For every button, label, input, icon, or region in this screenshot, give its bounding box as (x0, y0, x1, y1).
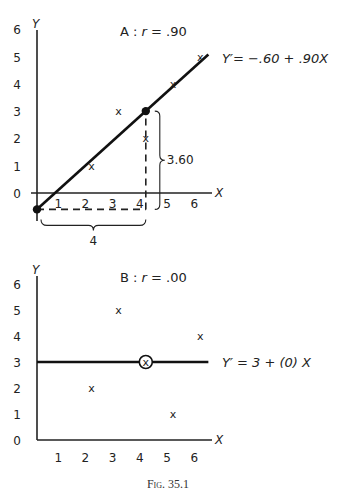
panel-label: B : (120, 270, 142, 285)
y-tick-label: 1 (13, 160, 21, 174)
y-tick-label: 0 (13, 434, 21, 448)
run-label: 4 (90, 234, 98, 248)
x-tick-label: 6 (190, 197, 198, 211)
x-tick-label: 5 (163, 451, 171, 465)
r-value: = .90 (151, 24, 187, 39)
chart-title: A : r = .90 (120, 24, 187, 39)
y-tick-label: 4 (13, 78, 21, 92)
y-tick-label: 2 (13, 132, 21, 146)
x-tick-label: 3 (109, 451, 117, 465)
y-tick-label: 1 (13, 408, 21, 422)
data-point: x (115, 304, 122, 317)
rise-brace (155, 111, 165, 209)
x-tick-label: 5 (163, 197, 171, 211)
data-point: x (88, 382, 95, 395)
data-point: x (170, 408, 177, 421)
x-tick-label: 1 (54, 451, 62, 465)
data-point: x (143, 132, 150, 145)
line-anchor-point (33, 205, 41, 213)
panel-label: A : (120, 24, 142, 39)
figure-caption: Fig. 35.1 (147, 477, 189, 491)
panel-b: YX0123456123456B : r = .00Y′ = 3 + (0) X… (13, 263, 312, 465)
x-tick-label: 2 (82, 451, 90, 465)
chart-title: B : r = .00 (120, 270, 187, 285)
y-tick-label: 5 (13, 304, 21, 318)
figure-canvas: YX0123456123456A : r = .90Y′= −.60 + .90… (0, 0, 337, 494)
y-tick-label: 6 (13, 23, 21, 37)
x-tick-label: 4 (136, 451, 144, 465)
r-value: = .00 (151, 270, 187, 285)
x-axis-label: X (214, 433, 224, 447)
data-point: x (197, 51, 204, 64)
x-axis-label: X (214, 186, 224, 200)
y-tick-label: 6 (13, 278, 21, 292)
y-axis-label: Y (32, 17, 41, 31)
data-point: x (197, 330, 204, 343)
panel-a: YX0123456123456A : r = .90Y′= −.60 + .90… (13, 17, 329, 248)
data-point: x (88, 160, 95, 173)
run-brace (41, 219, 146, 230)
y-tick-label: 0 (13, 187, 21, 201)
y-tick-label: 3 (13, 105, 21, 119)
y-axis-label: Y (32, 263, 41, 277)
y-tick-label: 5 (13, 51, 21, 65)
y-tick-label: 3 (13, 356, 21, 370)
x-tick-label: 6 (190, 451, 198, 465)
regression-line (34, 55, 208, 212)
line-anchor-point (142, 107, 150, 115)
y-tick-label: 2 (13, 382, 21, 396)
y-tick-label: 4 (13, 330, 21, 344)
regression-equation: Y′ = 3 + (0) X (222, 355, 312, 370)
data-point: x (115, 105, 122, 118)
regression-equation: Y′= −.60 + .90X (222, 51, 329, 66)
data-point: x (143, 356, 150, 369)
data-point: x (170, 78, 177, 91)
rise-label: 3.60 (167, 153, 194, 167)
r-symbol: r (142, 270, 151, 285)
r-symbol: r (142, 24, 151, 39)
